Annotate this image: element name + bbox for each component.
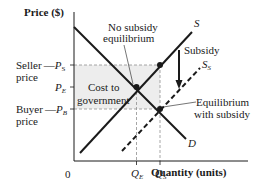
subsidy-arrow-head xyxy=(176,80,183,89)
supply-subsidy-label: SS xyxy=(202,58,212,72)
demand-label: D xyxy=(187,137,196,149)
p-e-label: PE xyxy=(54,81,67,95)
eq-subsidy-annotation-1: Equilibrium xyxy=(196,96,250,108)
no-subsidy-annotation-2: equilibrium xyxy=(103,32,155,44)
subsidy-diagram: Price ($) Quantity (units) 0 S SS D Sell… xyxy=(0,0,276,194)
cost-annotation-2: government xyxy=(77,94,130,106)
supply-label: S xyxy=(194,17,200,29)
subsidy-annotation: Subsidy xyxy=(184,44,220,56)
buyer-price-label-2: price xyxy=(16,115,38,127)
seller-price-label-2: price xyxy=(16,71,38,83)
no-subsidy-equilibrium-point xyxy=(134,84,140,90)
q-e-label: QE xyxy=(131,167,144,181)
eq-subsidy-annotation-2: with subsidy xyxy=(194,108,250,120)
seller-price-point xyxy=(157,62,163,68)
origin-label: 0 xyxy=(65,168,71,180)
cost-annotation-1: Cost to xyxy=(88,81,120,93)
y-axis-label: Price ($) xyxy=(24,6,64,19)
subsidy-equilibrium-point xyxy=(157,106,163,112)
